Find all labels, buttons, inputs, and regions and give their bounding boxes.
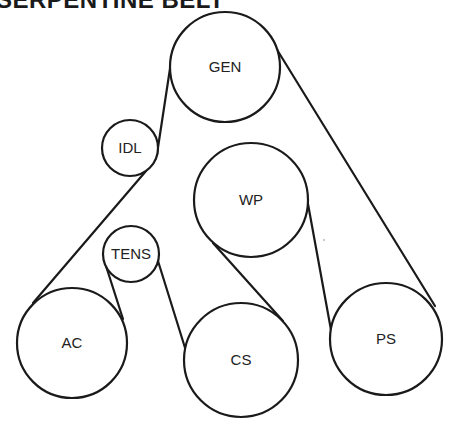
belt-segment-gen-idl [157, 62, 171, 154]
belt-segment-tens-cs [158, 261, 186, 351]
pulley-label-gen: GEN [209, 58, 242, 75]
pulley-label-ps: PS [376, 330, 396, 347]
pulley-ps: PS [330, 283, 442, 395]
belt-segment-wp-ps [308, 204, 331, 330]
pulley-label-idl: IDL [118, 139, 141, 156]
pulley-label-cs: CS [231, 351, 252, 368]
pulley-tens: TENS [103, 226, 159, 282]
pulley-cs: CS [184, 303, 298, 417]
pulley-idl: IDL [102, 120, 158, 176]
belt-routing-diagram: GENIDLWPTENSACCSPS [0, 0, 452, 425]
pulley-ac: AC [17, 288, 127, 398]
pulley-label-tens: TENS [111, 245, 151, 262]
scan-speck [323, 239, 325, 241]
pulley-label-wp: WP [239, 191, 263, 208]
pulley-gen: GEN [170, 12, 280, 122]
pulley-label-ac: AC [62, 334, 83, 351]
pulley-wp: WP [194, 143, 308, 257]
